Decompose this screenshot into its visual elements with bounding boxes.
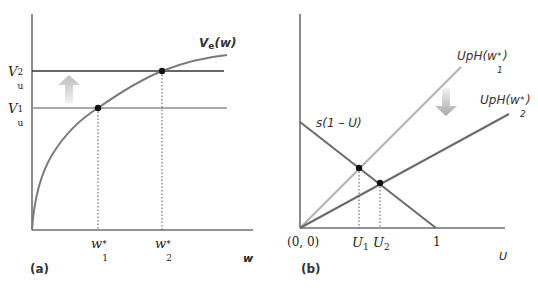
vu2-label: V2u: [8, 65, 17, 78]
uph-w1-line: [300, 67, 461, 228]
vu2-base: V: [8, 64, 17, 79]
equilibrium-point-1: [95, 105, 101, 111]
uph-w2-sub: 2: [520, 110, 526, 119]
uph-w1-pre: UpH(w: [457, 49, 497, 63]
up-arrow-icon: [58, 75, 80, 103]
uph-w1-post: ): [503, 49, 508, 63]
uph-w2-line: [300, 114, 509, 228]
uph-w2-pre: UpH(w: [480, 93, 520, 107]
down-arrow-icon: [435, 88, 457, 116]
u2-base: U: [373, 235, 384, 250]
vu2-sup: 2: [17, 68, 23, 77]
vu1-sub: u: [17, 119, 23, 128]
intersection-point-2: [377, 180, 383, 186]
intersection-point-1: [356, 165, 362, 171]
w1-base: w: [91, 236, 102, 251]
uph-w2-label: UpH(w*2): [480, 94, 531, 106]
uph-w1-sup: *: [497, 52, 502, 61]
equilibrium-point-2: [159, 68, 165, 74]
u1-sub: 1: [363, 242, 369, 252]
uph-w1-label: UpH(w*1): [457, 50, 508, 62]
vu1-base: V: [8, 101, 17, 116]
diagram-canvas: [0, 0, 538, 293]
w1-sup: *: [102, 240, 107, 249]
uph-w2-sup: *: [520, 96, 525, 105]
uph-w1-sub: 1: [497, 66, 503, 75]
w1-tick-label: w*1: [91, 237, 102, 250]
vu1-label: V1u: [8, 102, 17, 115]
ve-curve-label: Ve(w): [199, 37, 236, 49]
one-tick-label: 1: [433, 236, 441, 248]
panel-b-x-axis-label: U: [499, 251, 507, 262]
w2-sup: *: [166, 240, 171, 249]
ve-base: V: [199, 36, 208, 50]
w2-base: w: [155, 236, 166, 251]
u1-tick-label: U1: [352, 236, 369, 249]
vu2-sub: u: [17, 82, 23, 91]
ve-sub: e: [208, 41, 214, 51]
u2-sub: 2: [384, 242, 390, 252]
w2-sub: 2: [166, 254, 172, 263]
w2-tick-label: w*2: [155, 237, 166, 250]
vu1-sup: 1: [17, 105, 23, 114]
u1-base: U: [352, 235, 363, 250]
ve-arg: (w): [214, 36, 236, 50]
panel-a-x-axis-label: w: [243, 253, 253, 264]
u2-tick-label: U2: [373, 236, 390, 249]
origin-label: (0, 0): [287, 236, 319, 248]
panel-a-label: (a): [30, 263, 49, 275]
w1-sub: 1: [102, 254, 108, 263]
panel-b-label: (b): [301, 263, 321, 275]
s-line-label: s(1 – U): [316, 117, 362, 129]
ve-curve: [32, 55, 227, 230]
uph-w2-post: ): [526, 93, 531, 107]
s-1-minus-u-line: [300, 122, 436, 228]
